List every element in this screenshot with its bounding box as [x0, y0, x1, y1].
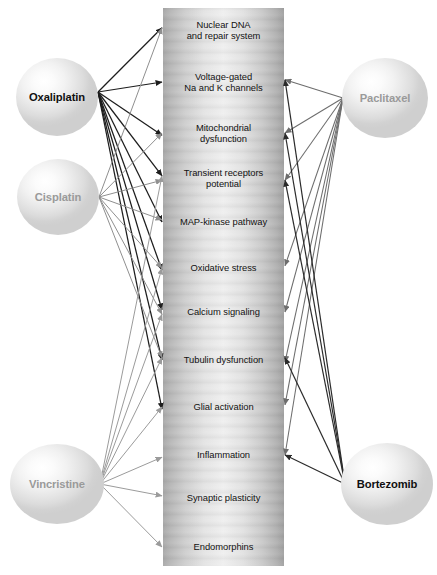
arrow-oxaliplatin-to-oxidative-stress	[98, 92, 162, 270]
figure-canvas: Nuclear DNAand repair systemVoltage-gate…	[0, 0, 437, 575]
mechanism-glial-activation: Glial activation	[163, 401, 284, 412]
mechanism-oxidative-stress: Oxidative stress	[163, 262, 284, 273]
mechanism-label-line: MAP-kinase pathway	[163, 216, 284, 227]
arrow-vincristine-to-inflammation	[100, 457, 162, 484]
mechanism-label-line: Transient receptors	[163, 167, 284, 178]
mechanism-voltage-gated: Voltage-gatedNa and K channels	[163, 71, 284, 94]
mechanism-transient-receptors: Transient receptorspotential	[163, 167, 284, 190]
mechanism-label-line: Inflammation	[163, 449, 284, 460]
arrow-vincristine-to-calcium-signaling	[100, 314, 162, 484]
mechanism-synaptic-plasticity: Synaptic plasticity	[163, 492, 284, 503]
arrow-cisplatin-to-calcium-signaling	[99, 197, 162, 314]
drug-label-oxaliplatin: Oxaliplatin	[29, 91, 85, 103]
arrow-paclitaxel-to-glial-activation	[285, 98, 343, 405]
mechanism-label-line: and repair system	[163, 30, 284, 41]
arrow-paclitaxel-to-calcium-signaling	[285, 98, 343, 312]
mechanism-tubulin: Tubulin dysfunction	[163, 354, 284, 365]
mechanism-label-line: Nuclear DNA	[163, 19, 284, 30]
mechanism-label-line: potential	[163, 178, 284, 189]
arrow-oxaliplatin-to-nuclear-dna	[98, 28, 162, 92]
mechanism-nuclear-dna: Nuclear DNAand repair system	[163, 19, 284, 42]
mechanism-label-line: Tubulin dysfunction	[163, 354, 284, 365]
drug-node-paclitaxel[interactable]: Paclitaxel	[342, 58, 428, 138]
drug-label-vincristine: Vincristine	[29, 478, 85, 490]
drug-label-bortezomib: Bortezomib	[357, 478, 418, 490]
drug-label-cisplatin: Cisplatin	[35, 191, 81, 203]
drug-node-cisplatin[interactable]: Cisplatin	[17, 159, 99, 235]
arrow-oxaliplatin-to-glial-activation	[98, 92, 162, 409]
arrow-bortezomib-to-inflammation	[285, 455, 345, 484]
drug-node-vincristine[interactable]: Vincristine	[10, 444, 104, 524]
mechanism-label-line: Endomorphins	[163, 541, 284, 552]
drug-node-bortezomib[interactable]: Bortezomib	[341, 443, 433, 525]
mechanism-mitochondrial: Mitochondrialdysfunction	[163, 122, 284, 145]
drug-node-oxaliplatin[interactable]: Oxaliplatin	[16, 58, 98, 136]
mechanism-label-line: Synaptic plasticity	[163, 492, 284, 503]
drug-label-paclitaxel: Paclitaxel	[360, 92, 411, 104]
arrow-paclitaxel-to-mitochondrial	[285, 98, 343, 133]
arrow-bortezomib-to-mitochondrial	[285, 133, 345, 484]
mechanism-label-line: Glial activation	[163, 401, 284, 412]
mechanism-label-line: Voltage-gated	[163, 71, 284, 82]
mechanism-label-line: Oxidative stress	[163, 262, 284, 273]
arrow-vincristine-to-glial-activation	[100, 407, 162, 484]
arrow-vincristine-to-endomorphins	[100, 484, 162, 547]
arrow-cisplatin-to-oxidative-stress	[99, 197, 162, 268]
mechanism-calcium-signaling: Calcium signaling	[163, 306, 284, 317]
mechanism-map-kinase: MAP-kinase pathway	[163, 216, 284, 227]
mechanism-label-line: Na and K channels	[163, 82, 284, 93]
arrow-paclitaxel-to-voltage-gated	[285, 80, 343, 98]
mechanism-label-line: dysfunction	[163, 133, 284, 144]
mechanism-endomorphins: Endomorphins	[163, 541, 284, 552]
arrow-oxaliplatin-to-voltage-gated	[98, 82, 162, 92]
mechanism-label-line: Calcium signaling	[163, 306, 284, 317]
mechanism-label-line: Mitochondrial	[163, 122, 284, 133]
mechanism-inflammation: Inflammation	[163, 449, 284, 460]
